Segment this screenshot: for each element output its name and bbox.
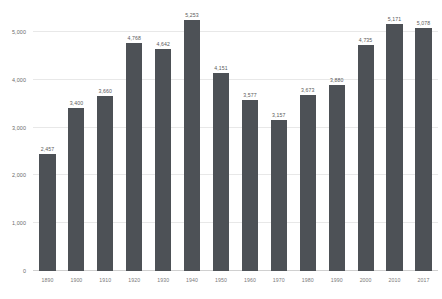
x-axis-tick-label: 1890 [33,277,62,289]
bar: 3,880 [329,85,345,271]
bar-value-label: 3,660 [99,88,112,94]
bar-value-label: 2,457 [41,146,54,152]
bar-slot: 3,660 [91,8,120,271]
bar: 5,253 [184,20,200,271]
bar-value-label: 5,253 [185,12,198,18]
x-axis-tick-label: 1970 [264,277,293,289]
bar-slot: 4,151 [207,8,236,271]
y-axis-tick-label: 5,000 [12,29,26,35]
bar-value-label: 3,577 [243,92,256,98]
bar-slot: 5,253 [178,8,207,271]
bar-value-label: 4,735 [359,37,372,43]
bar-value-label: 4,642 [156,41,169,47]
y-axis-tick-label: 2,000 [12,172,26,178]
bar-slot: 5,078 [409,8,438,271]
bar-value-label: 3,880 [330,77,343,83]
bar-slot: 3,400 [62,8,91,271]
bar: 3,673 [300,95,316,271]
bar-slot: 4,642 [149,8,178,271]
bar: 3,400 [68,108,84,271]
bar: 3,577 [242,100,258,271]
x-axis-tick-label: 2000 [351,277,380,289]
bar: 3,157 [271,120,287,271]
x-axis: 1890190019101920193019401950196019701980… [33,277,438,289]
bar-slot: 3,880 [322,8,351,271]
bar: 4,642 [155,49,171,271]
x-axis-tick-label: 1930 [149,277,178,289]
bar-slot: 2,457 [33,8,62,271]
bar: 2,457 [39,154,55,271]
y-axis-tick-label: 1,000 [12,220,26,226]
y-axis: 01,0002,0003,0004,0005,000 [0,8,30,271]
bar: 4,735 [358,45,374,271]
x-axis-tick-label: 1910 [91,277,120,289]
bar-value-label: 3,673 [301,87,314,93]
bar-value-label: 3,400 [70,100,83,106]
bar: 4,151 [213,73,229,271]
bar: 4,768 [126,43,142,271]
x-axis-tick-label: 1900 [62,277,91,289]
bar-chart: 01,0002,0003,0004,0005,000 2,4573,4003,6… [0,0,442,299]
x-axis-tick-label: 1980 [293,277,322,289]
x-axis-tick-label: 1940 [178,277,207,289]
bar-slot: 3,157 [264,8,293,271]
bar-slot: 4,735 [351,8,380,271]
bar-value-label: 5,171 [388,16,401,22]
bar-value-label: 3,157 [272,112,285,118]
x-axis-tick-label: 1960 [235,277,264,289]
bar-value-label: 5,078 [417,20,430,26]
bar-slot: 4,768 [120,8,149,271]
bar-slot: 3,577 [235,8,264,271]
bar: 5,171 [386,24,402,271]
bar: 5,078 [415,28,431,271]
y-axis-tick-label: 0 [23,268,26,274]
plot-area: 2,4573,4003,6604,7684,6425,2534,1513,577… [33,8,438,271]
x-axis-tick-label: 1990 [322,277,351,289]
bar-value-label: 4,151 [214,65,227,71]
bar-series: 2,4573,4003,6604,7684,6425,2534,1513,577… [33,8,438,271]
bar-value-label: 4,768 [127,35,140,41]
x-axis-tick-label: 2010 [380,277,409,289]
bar-slot: 5,171 [380,8,409,271]
bar-slot: 3,673 [293,8,322,271]
y-axis-tick-label: 3,000 [12,125,26,131]
bar: 3,660 [97,96,113,271]
y-axis-tick-label: 4,000 [12,77,26,83]
x-axis-tick-label: 1950 [207,277,236,289]
x-axis-tick-label: 1920 [120,277,149,289]
x-axis-tick-label: 2017 [409,277,438,289]
